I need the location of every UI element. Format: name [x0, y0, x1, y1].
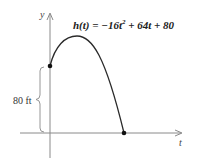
parabola-curve	[50, 36, 124, 133]
equation-lhs: h(t) = −16t	[73, 19, 123, 32]
parabola-graph: y t 80 ft h(t) = −16t2 + 64t + 80	[0, 0, 197, 168]
start-point	[48, 64, 53, 69]
equation-rhs: + 64t + 80	[126, 19, 175, 31]
equation-label: h(t) = −16t2 + 64t + 80	[73, 18, 175, 32]
y-axis-label: y	[39, 9, 45, 20]
brace-label: 80 ft	[13, 95, 32, 106]
end-point	[122, 131, 127, 136]
height-brace	[36, 67, 44, 132]
x-axis-label: t	[179, 137, 182, 148]
